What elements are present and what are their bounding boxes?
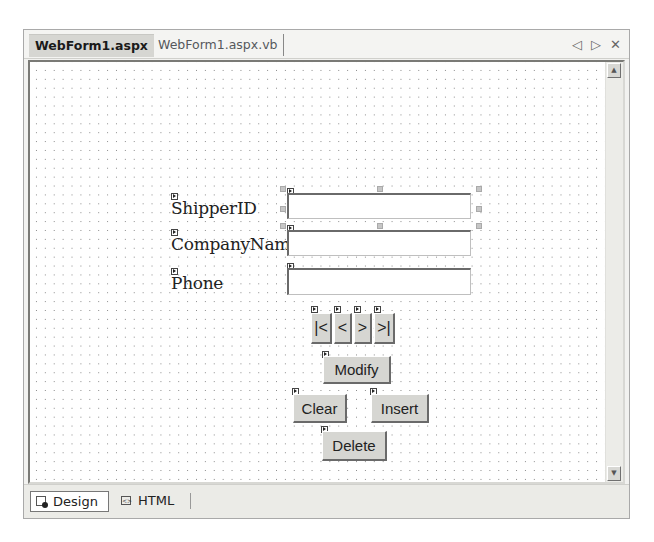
resize-handle[interactable]: [377, 223, 383, 229]
server-control-glyph-icon: [311, 306, 318, 313]
view-tab-separator: [190, 493, 191, 509]
resize-handle[interactable]: [280, 223, 286, 229]
scroll-down-icon[interactable]: ▼: [607, 466, 621, 481]
previous-record-button[interactable]: <: [334, 313, 352, 344]
vertical-scrollbar[interactable]: ▲ ▼: [605, 62, 623, 482]
html-view-icon: <>: [121, 496, 131, 505]
tab-design-label: Design: [53, 494, 98, 509]
resize-handle[interactable]: [476, 223, 482, 229]
label-phone[interactable]: Phone: [171, 273, 223, 293]
tab-design-view[interactable]: Design: [30, 491, 109, 512]
resize-handle[interactable]: [280, 186, 286, 192]
label-companyname[interactable]: CompanyName: [171, 234, 300, 254]
first-record-button[interactable]: |<: [311, 313, 332, 344]
design-surface[interactable]: ShipperID CompanyName Phone |<: [30, 62, 606, 482]
phone-textbox[interactable]: [287, 268, 471, 295]
close-icon[interactable]: ✕: [610, 37, 621, 52]
server-control-glyph-icon: [334, 306, 341, 313]
resize-handle[interactable]: [280, 206, 286, 212]
resize-handle[interactable]: [476, 186, 482, 192]
tab-controls: ◁ ▷ ✕: [572, 35, 621, 53]
last-record-button[interactable]: >|: [374, 313, 395, 344]
shipperid-textbox[interactable]: [287, 193, 471, 219]
insert-button[interactable]: Insert: [371, 394, 429, 423]
tab-webform1-aspx-vb[interactable]: WebForm1.aspx.vb: [152, 34, 284, 56]
design-surface-frame: ShipperID CompanyName Phone |<: [28, 60, 625, 484]
next-record-button[interactable]: >: [354, 313, 372, 344]
designer-window: WebForm1.aspx WebForm1.aspx.vb ◁ ▷ ✕ Shi…: [23, 29, 630, 519]
companyname-textbox[interactable]: [287, 230, 471, 256]
label-shipperid[interactable]: ShipperID: [171, 198, 257, 218]
tab-webform1-aspx[interactable]: WebForm1.aspx: [29, 34, 154, 57]
modify-button[interactable]: Modify: [323, 356, 391, 384]
server-control-glyph-icon: [374, 306, 381, 313]
delete-button[interactable]: Delete: [322, 431, 387, 461]
resize-handle[interactable]: [377, 186, 383, 192]
tab-html-view[interactable]: <> HTML: [116, 491, 186, 512]
scroll-up-icon[interactable]: ▲: [607, 63, 621, 78]
resize-handle[interactable]: [476, 206, 482, 212]
tab-html-label: HTML: [138, 493, 174, 508]
scroll-tabs-right-icon[interactable]: ▷: [591, 37, 601, 52]
view-tab-bar: Design <> HTML: [24, 484, 629, 518]
server-control-glyph-icon: [354, 306, 361, 313]
clear-button[interactable]: Clear: [293, 394, 347, 423]
design-view-icon: [36, 496, 46, 506]
document-tab-strip: WebForm1.aspx WebForm1.aspx.vb ◁ ▷ ✕: [24, 30, 629, 59]
scroll-tabs-left-icon[interactable]: ◁: [572, 37, 582, 52]
